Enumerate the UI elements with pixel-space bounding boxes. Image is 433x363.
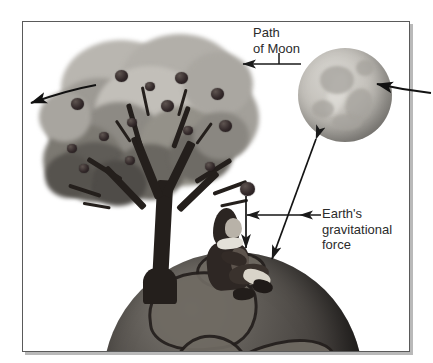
tree-twig (195, 122, 213, 145)
moon-mare (312, 100, 334, 118)
tree-twig (220, 199, 248, 208)
apple (161, 100, 174, 112)
earth-landmass (227, 337, 336, 351)
illustration-scene (23, 22, 409, 351)
label-earths-gravitational-force: Earth's gravitational force (322, 206, 392, 253)
apple (79, 164, 89, 173)
apple (67, 144, 77, 153)
tree-twig (83, 202, 111, 210)
figure-root: Path of Moon Earth's gravitational force (0, 0, 433, 363)
label-path-of-moon: Path of Moon (253, 25, 300, 56)
tree-branch (86, 157, 123, 182)
apple (205, 162, 215, 171)
apple (115, 70, 128, 82)
apple (71, 98, 84, 110)
moon-sphere (298, 48, 392, 142)
newton-figure (191, 208, 273, 304)
tree-trunk-flare (143, 268, 177, 304)
apple (99, 132, 109, 141)
moon-mare (320, 66, 354, 94)
tree-branch (161, 140, 195, 198)
tree-branch (68, 184, 102, 198)
newton-shoe (233, 287, 256, 301)
apple (175, 72, 188, 84)
moon-mare (356, 60, 374, 76)
apple (219, 120, 232, 132)
moon-mare (332, 114, 362, 130)
apple (125, 156, 135, 165)
apple (211, 88, 224, 100)
tree-branch (131, 135, 164, 200)
apple (127, 118, 137, 127)
newton-face (225, 218, 242, 238)
apple (183, 126, 193, 135)
newton-shoe (252, 278, 274, 294)
apple (145, 82, 155, 91)
falling-apple (240, 182, 255, 196)
